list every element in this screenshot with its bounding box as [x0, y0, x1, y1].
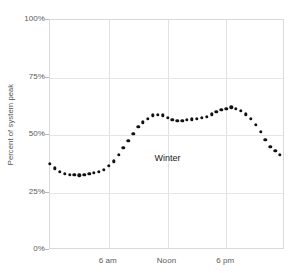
gridline-vertical	[109, 20, 110, 248]
data-point	[185, 118, 188, 121]
data-point	[122, 146, 125, 149]
data-point	[83, 173, 86, 176]
gridline-vertical	[226, 20, 227, 248]
data-point	[63, 172, 66, 175]
gridline-horizontal	[50, 135, 283, 136]
data-point	[166, 116, 169, 119]
data-point	[264, 138, 267, 141]
data-point	[225, 107, 228, 110]
data-point	[176, 119, 179, 122]
data-point	[136, 125, 139, 128]
data-point	[239, 109, 242, 112]
data-point	[229, 106, 232, 109]
data-point	[107, 164, 110, 167]
x-axis-tick-label: 6 pm	[195, 256, 255, 265]
data-point	[269, 145, 272, 148]
data-point	[112, 160, 115, 163]
data-point	[278, 153, 281, 156]
data-point	[87, 172, 90, 175]
x-axis-tick-label: Noon	[137, 256, 197, 265]
series-annotation-winter: Winter	[154, 153, 180, 163]
data-point	[215, 110, 218, 113]
gridline-horizontal	[50, 78, 283, 79]
data-point	[151, 114, 154, 117]
data-point	[97, 170, 100, 173]
y-axis-tick-label: 25%	[1, 187, 45, 196]
y-axis-tick-label: 100%	[1, 14, 45, 23]
data-point	[58, 170, 61, 173]
y-axis-title: Percent of system peak	[3, 0, 19, 249]
data-point	[220, 108, 223, 111]
y-axis-title-text: Percent of system peak	[7, 84, 16, 166]
plot-area: Winter	[49, 19, 284, 249]
data-point	[78, 174, 81, 177]
data-point	[244, 113, 247, 116]
data-point	[205, 115, 208, 118]
data-point	[161, 114, 164, 117]
data-point	[146, 117, 149, 120]
data-point	[200, 116, 203, 119]
data-point	[254, 123, 257, 126]
y-axis-tick-label: 75%	[1, 72, 45, 81]
data-point	[127, 139, 130, 142]
data-point	[53, 167, 56, 170]
data-point	[249, 117, 252, 120]
data-point	[171, 118, 174, 121]
gridline-vertical	[168, 20, 169, 248]
data-point	[117, 153, 120, 156]
data-point	[180, 119, 183, 122]
data-point	[190, 118, 193, 121]
y-axis-tick-label: 0%	[1, 244, 45, 253]
data-point	[68, 173, 71, 176]
data-point	[92, 171, 95, 174]
data-point	[195, 117, 198, 120]
data-point	[234, 107, 237, 110]
y-axis-tick-label: 50%	[1, 129, 45, 138]
data-point	[274, 149, 277, 152]
data-point	[73, 173, 76, 176]
data-point	[102, 168, 105, 171]
data-point	[141, 121, 144, 124]
data-point	[156, 113, 159, 116]
x-axis-tick-label: 6 am	[78, 256, 138, 265]
gridline-horizontal	[50, 193, 283, 194]
y-axis-tick-mark	[45, 249, 49, 250]
data-point	[259, 130, 262, 133]
data-point	[210, 113, 213, 116]
chart-figure: Percent of system peak 100%75%50%25%0% 6…	[0, 0, 288, 273]
chart-title-cropped	[0, 0, 288, 6]
data-point	[48, 162, 51, 165]
